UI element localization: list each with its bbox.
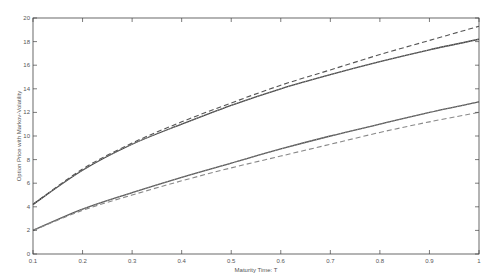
series-lower-solid: [33, 102, 479, 231]
x-tick-label: 0.7: [326, 258, 335, 264]
series-lower-dashed: [33, 112, 479, 230]
y-tick-label: 8: [27, 157, 31, 163]
x-tick-label: 0.3: [128, 258, 137, 264]
y-axis-label: Option Price with Markov-Volatility: [16, 91, 22, 182]
x-tick-label: 0.1: [29, 258, 38, 264]
x-tick-label: 0.8: [376, 258, 385, 264]
series-upper-dotted: [33, 39, 479, 204]
line-chart: 0.10.20.30.40.50.60.70.80.91024681012141…: [0, 0, 499, 276]
y-tick-label: 4: [27, 204, 31, 210]
y-tick-label: 0: [27, 251, 31, 257]
x-axis-label: Maturity Time: T: [235, 267, 278, 273]
y-tick-label: 6: [27, 180, 31, 186]
series-layer: [33, 26, 479, 230]
x-tick-label: 0.6: [277, 258, 286, 264]
x-tick-label: 1: [477, 258, 481, 264]
x-tick-label: 0.5: [227, 258, 236, 264]
x-tick-label: 0.9: [425, 258, 434, 264]
y-tick-label: 16: [23, 62, 30, 68]
x-tick-label: 0.2: [78, 258, 87, 264]
series-upper-solid: [33, 39, 479, 204]
y-tick-label: 18: [23, 39, 30, 45]
series-upper-dashed: [33, 26, 479, 204]
y-tick-label: 12: [23, 109, 30, 115]
x-tick-label: 0.4: [177, 258, 186, 264]
y-tick-label: 14: [23, 86, 30, 92]
axes: 0.10.20.30.40.50.60.70.80.91024681012141…: [23, 15, 481, 264]
y-tick-label: 10: [23, 133, 30, 139]
y-tick-label: 20: [23, 15, 30, 21]
y-tick-label: 2: [27, 227, 31, 233]
series-lower-dotted: [33, 102, 479, 231]
